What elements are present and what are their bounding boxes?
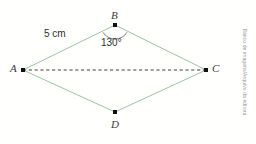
side-length-label: 5 cm [44,29,66,39]
edge-d-a [23,70,115,112]
vertex-dot-c [204,68,208,72]
vertex-label-b: B [111,10,118,21]
edge-b-c [115,25,206,70]
image-credit-text: Banco de imagens/Arquivo da editora [243,29,249,116]
vertex-dot-d [113,110,117,114]
vertex-label-c: C [212,63,219,74]
vertex-dot-a [21,68,25,72]
angle-measure-label: 130° [101,38,122,48]
vertex-label-d: D [111,119,119,130]
geometry-figure-canvas: A B C D 5 cm 130° Banco de imagens/Arqui… [0,0,256,144]
vertex-dot-b [113,23,117,27]
vertex-label-a: A [10,63,17,74]
edge-c-d [115,70,206,112]
